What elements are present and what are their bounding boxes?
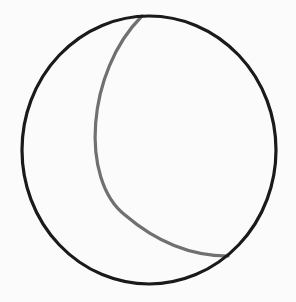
background: [0, 0, 296, 302]
moon-diagram: [0, 0, 296, 302]
